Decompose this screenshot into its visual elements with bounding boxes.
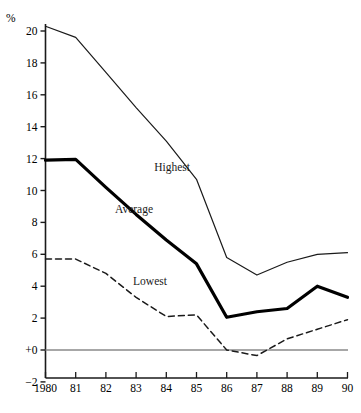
- y-tick-label: 20: [26, 25, 38, 37]
- x-tick-label: 84: [161, 382, 173, 394]
- x-tick-label: 85: [191, 382, 203, 394]
- y-tick-label: 18: [26, 57, 38, 69]
- x-tick-label: 87: [251, 382, 263, 394]
- chart-container: % 2018161412108642+0−2 19808182838485868…: [0, 0, 361, 413]
- y-tick-label: +0: [25, 344, 37, 356]
- y-tick-label: 8: [32, 216, 38, 228]
- y-tick-label: 14: [26, 121, 38, 133]
- y-tick-label: 12: [26, 153, 38, 165]
- y-tick-label: 4: [32, 280, 38, 292]
- x-tick-label: 83: [130, 382, 142, 394]
- y-tick-label: 6: [32, 248, 38, 260]
- y-tick-label: 16: [26, 89, 38, 101]
- line-chart: % 2018161412108642+0−2 19808182838485868…: [0, 0, 361, 413]
- x-tick-label: 82: [100, 382, 112, 394]
- y-axis-unit-label: %: [6, 12, 16, 24]
- x-tick-label: 1980: [34, 382, 57, 394]
- x-tick-label: 86: [221, 382, 233, 394]
- series-label-average: Average: [115, 203, 153, 216]
- series-label-highest: Highest: [154, 161, 191, 174]
- y-tick-label: 10: [26, 185, 38, 197]
- x-tick-label: 89: [312, 382, 324, 394]
- x-tick-label: 90: [342, 382, 354, 394]
- chart-background: [0, 0, 361, 413]
- y-tick-label: 2: [32, 312, 38, 324]
- x-tick-label: 81: [70, 382, 82, 394]
- series-label-lowest: Lowest: [133, 275, 168, 287]
- x-tick-label: 88: [281, 382, 293, 394]
